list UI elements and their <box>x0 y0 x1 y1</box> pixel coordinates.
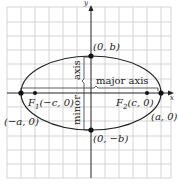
ellipse-diagram <box>0 0 178 185</box>
vertex-right-point <box>158 90 163 95</box>
focus-2-coords: (c, 0) <box>127 97 153 108</box>
focus-1-prefix: F <box>28 97 35 108</box>
co-vertex-bottom-label: (0, −b) <box>93 134 128 144</box>
x-axis-label: x <box>170 95 174 102</box>
co-vertex-bottom-point <box>88 127 93 132</box>
y-axis-label: y <box>84 0 88 7</box>
major-axis-label: major axis <box>96 76 148 86</box>
focus-1-point <box>33 91 37 95</box>
focus-2-label: F2(c, 0) <box>116 98 154 111</box>
minor-axis-label-axis: axis <box>72 60 82 80</box>
vertex-left-point <box>18 90 23 95</box>
focus-2-point <box>145 91 149 95</box>
minor-axis-label-minor: minor <box>72 95 82 125</box>
focus-1-coords: (−c, 0) <box>39 97 74 108</box>
co-vertex-top-label: (0, b) <box>93 42 120 52</box>
focus-2-prefix: F <box>116 97 123 108</box>
major-axis-bracket <box>21 86 158 91</box>
vertex-left-label: (−a, 0) <box>4 117 39 127</box>
co-vertex-top-point <box>88 53 93 58</box>
y-axis-arrow-icon <box>89 5 94 11</box>
vertex-right-label: (a, 0) <box>151 112 177 122</box>
focus-1-label: F1(−c, 0) <box>28 98 74 111</box>
